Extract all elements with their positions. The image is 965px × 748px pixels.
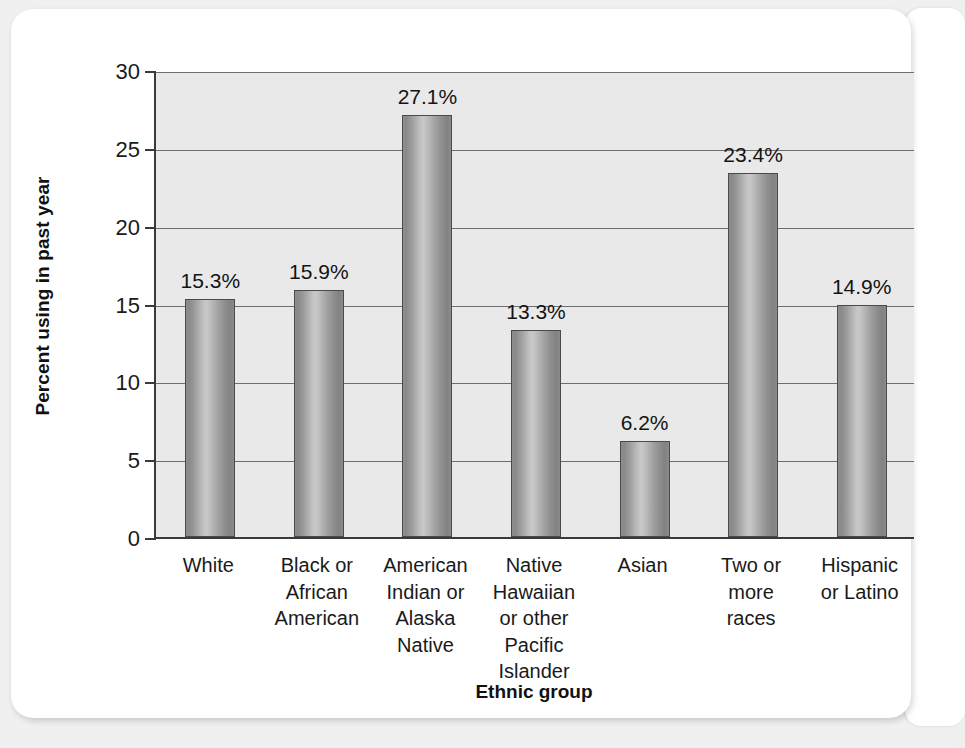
bar-value-label: 27.1% <box>398 85 458 109</box>
category-label-line: Native <box>371 632 480 659</box>
plot-area: 05101520253015.3%15.9%27.1%13.3%6.2%23.4… <box>154 72 914 539</box>
bar-value-label: 15.9% <box>289 260 349 284</box>
bar[interactable] <box>620 441 670 538</box>
y-axis-tick-label: 10 <box>116 370 140 396</box>
y-axis-title: Percent using in past year <box>32 116 54 476</box>
category-label-line: Two or <box>697 552 806 579</box>
category-label-line: American <box>371 552 480 579</box>
category-label-line: Black or <box>263 552 372 579</box>
bar-value-label: 23.4% <box>723 143 783 167</box>
y-axis-tick <box>145 71 156 73</box>
category-label-line: races <box>697 605 806 632</box>
y-axis-tick-label: 0 <box>128 526 140 552</box>
x-axis-category-label: Black orAfricanAmerican <box>263 552 372 632</box>
bar[interactable] <box>837 305 887 537</box>
category-label-line: Alaska <box>371 605 480 632</box>
category-label-line: Native <box>480 552 589 579</box>
category-label-line: Hawaiian <box>480 579 589 606</box>
bar[interactable] <box>511 330 561 537</box>
x-axis-category-label: AmericanIndian orAlaskaNative <box>371 552 480 658</box>
y-axis-tick-label: 25 <box>116 137 140 163</box>
x-axis-category-label: Two ormoreraces <box>697 552 806 632</box>
plot-inner: 05101520253015.3%15.9%27.1%13.3%6.2%23.4… <box>156 72 914 537</box>
x-axis-title: Ethnic group <box>154 681 914 703</box>
bar-value-label: 14.9% <box>832 275 892 299</box>
y-axis-tick <box>145 382 156 384</box>
x-axis-category-label: White <box>154 552 263 579</box>
y-axis-tick-label: 20 <box>116 215 140 241</box>
y-axis-tick <box>145 227 156 229</box>
category-label-line: Indian or <box>371 579 480 606</box>
bar-slot: 15.9% <box>265 72 374 537</box>
bar[interactable] <box>728 173 778 537</box>
bar-slot: 14.9% <box>807 72 916 537</box>
bar-slot: 15.3% <box>156 72 265 537</box>
chart-card: Percent using in past year 0510152025301… <box>11 9 911 718</box>
category-label-line: more <box>697 579 806 606</box>
y-axis-tick <box>145 305 156 307</box>
y-axis-tick <box>145 460 156 462</box>
bar-slot: 23.4% <box>699 72 808 537</box>
category-label-line: Hispanic <box>805 552 914 579</box>
bar-chart-figure: Percent using in past year 0510152025301… <box>11 9 911 718</box>
y-axis-tick <box>145 149 156 151</box>
category-label-line: or Latino <box>805 579 914 606</box>
bar-value-label: 13.3% <box>506 300 566 324</box>
x-axis-category-label: Asian <box>588 552 697 579</box>
category-label-line: or other <box>480 605 589 632</box>
bar-slot: 27.1% <box>373 72 482 537</box>
bar[interactable] <box>402 115 452 537</box>
x-axis-category-label: Hispanicor Latino <box>805 552 914 605</box>
bar-slot: 6.2% <box>590 72 699 537</box>
bar[interactable] <box>185 299 235 537</box>
category-label-line: American <box>263 605 372 632</box>
bar-slot: 13.3% <box>482 72 591 537</box>
y-axis-tick <box>145 538 156 540</box>
category-label-line: Pacific <box>480 632 589 659</box>
y-axis-tick-label: 30 <box>116 59 140 85</box>
category-label-line: Asian <box>588 552 697 579</box>
bar-value-label: 15.3% <box>181 269 241 293</box>
y-axis-tick-label: 5 <box>128 448 140 474</box>
bar-value-label: 6.2% <box>621 411 669 435</box>
category-label-line: White <box>154 552 263 579</box>
x-axis-category-label: NativeHawaiianor otherPacificIslander <box>480 552 589 685</box>
bar[interactable] <box>294 290 344 538</box>
category-label-line: African <box>263 579 372 606</box>
y-axis-tick-label: 15 <box>116 293 140 319</box>
